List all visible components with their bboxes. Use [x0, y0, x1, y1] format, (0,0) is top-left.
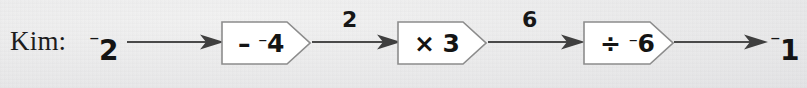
- machine-label: ÷⁻6: [583, 21, 655, 65]
- operator-symbol: –: [238, 29, 251, 58]
- negative-sign: ⁻: [258, 33, 267, 54]
- operand: 4: [267, 29, 285, 58]
- machine-label: ×3: [397, 21, 460, 65]
- operand: 6: [637, 29, 655, 58]
- operator-symbol: ×: [414, 29, 435, 58]
- negative-sign: ⁻: [628, 33, 637, 54]
- operand: 3: [442, 29, 460, 58]
- end-value: ⁻1: [770, 25, 800, 68]
- machine-divide-neg-6[interactable]: ÷⁻6: [583, 21, 674, 65]
- start-value-number: 2: [99, 34, 118, 67]
- person-label: Kim:: [10, 24, 66, 58]
- machine-label: –⁻4: [221, 21, 285, 65]
- machine-subtract-neg-4[interactable]: –⁻4: [221, 21, 311, 65]
- operator-symbol: ÷: [600, 29, 621, 58]
- arrow-machine-3-to-end: [673, 29, 768, 55]
- arrow-start-to-machine-1: [126, 29, 224, 55]
- worksheet-canvas: Kim: ⁻2 –⁻4 2 ×3 6: [0, 0, 807, 88]
- start-value: ⁻2: [89, 25, 119, 68]
- arrow-machine-2-to-machine-3: [487, 29, 585, 55]
- negative-sign: ⁻: [770, 30, 780, 54]
- machine-multiply-3[interactable]: ×3: [397, 21, 487, 65]
- end-value-number: 1: [780, 34, 799, 67]
- arrow-machine-1-to-machine-2: [311, 29, 401, 55]
- negative-sign: ⁻: [89, 30, 99, 54]
